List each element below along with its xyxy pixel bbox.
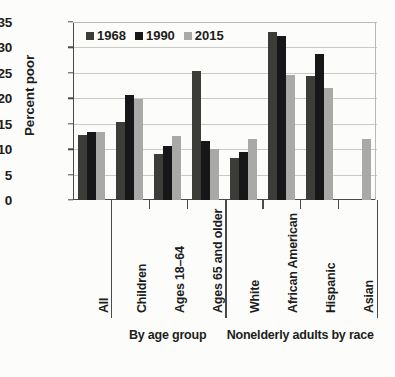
bar-1990-african-american [277,36,286,200]
bar-group-all [73,22,111,200]
legend-swatch-1968 [86,32,94,40]
y-tick-label-0: 0 [0,193,12,208]
group-caption-0: By age group [111,328,225,342]
y-tick-label-5: 5 [0,167,12,182]
bar-1968-children [116,122,125,200]
y-tick-label-25: 25 [0,65,12,80]
bar-2015-ages-65-and-older [210,149,219,200]
bar-1968-all [78,135,87,200]
y-tick-label-35: 35 [0,15,12,30]
legend-label-1990: 1990 [146,28,175,43]
bar-2015-asian [362,139,371,200]
bar-2015-ages-18-64 [172,136,181,200]
bar-1990-ages-65-and-older [201,141,210,201]
bar-1968-ages-65-and-older [192,71,201,200]
bar-1968-african-american [268,32,277,200]
bar-group-african-american [262,22,300,200]
legend-item-1968: 1968 [86,28,126,43]
y-tick-label-20: 20 [0,91,12,106]
legend-item-2015: 2015 [184,28,224,43]
x-label-all: All [97,298,111,313]
legend-swatch-1990 [135,32,143,40]
chart-figure: Percent poor 05101520253035 AllChildrenA… [0,0,395,377]
bar-1990-children [125,95,134,200]
bar-group-ages-18-64 [149,22,187,200]
bar-2015-hispanic [324,88,333,200]
chart-legend: 196819902015 [86,28,224,43]
bar-1990-hispanic [315,54,324,200]
y-axis-title: Percent poor [22,36,37,156]
bar-1968-hispanic [306,76,315,200]
y-tick-label-15: 15 [0,116,12,131]
bar-2015-children [134,99,143,200]
bar-2015-white [248,139,257,200]
bar-1968-white [230,158,239,200]
bar-1990-all [87,132,96,200]
legend-swatch-2015 [184,32,192,40]
y-tick-label-30: 30 [0,40,12,55]
group-caption-1: Nonelderly adults by race [225,328,377,342]
bar-1968-ages-18-64 [154,154,163,200]
bar-group-asian [338,22,376,200]
bars-layer [73,22,376,200]
group-bracket-0 [111,200,227,318]
legend-label-1968: 1968 [97,28,126,43]
bar-group-children [111,22,149,200]
bar-group-white [225,22,263,200]
bar-1990-white [239,152,248,200]
legend-item-1990: 1990 [135,28,175,43]
bar-2015-african-american [286,75,295,200]
bar-1990-ages-18-64 [163,146,172,200]
bar-group-hispanic [300,22,338,200]
group-bracket-1 [225,200,379,318]
bar-group-ages-65-and-older [187,22,225,200]
y-tick-label-10: 10 [0,142,12,157]
bar-2015-all [96,132,105,200]
legend-label-2015: 2015 [195,28,224,43]
